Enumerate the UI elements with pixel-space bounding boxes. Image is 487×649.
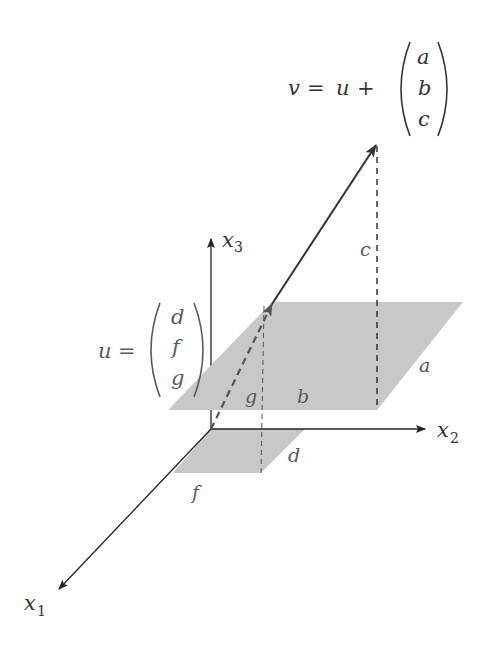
x1-axis [59, 429, 211, 589]
v-plus: + [357, 76, 375, 100]
u-component-g: g [171, 366, 184, 390]
x1-subscript: 1 [37, 603, 46, 619]
v-component-b: b [418, 76, 431, 100]
v-component-c: c [418, 107, 430, 131]
label-f: f [190, 481, 202, 503]
label-g: g [245, 385, 257, 407]
v-left-paren [401, 42, 410, 136]
v-right-paren [438, 42, 447, 136]
x2-label: x [437, 418, 449, 442]
x3-label: x [222, 228, 234, 252]
label-a: a [419, 354, 430, 376]
x3-subscript: 3 [234, 239, 243, 255]
vector-diagram: x 3 x 2 x 1 u = d f g v = u + a b c c a … [0, 0, 487, 649]
v-u-term: u [336, 76, 350, 100]
u-component-f: f [170, 335, 183, 359]
u-equals: = [118, 339, 136, 363]
u-component-d: d [171, 305, 184, 329]
v-equals: = [307, 76, 325, 100]
label-d: d [288, 444, 300, 466]
x2-subscript: 2 [450, 430, 459, 446]
v-component-a: a [417, 45, 430, 69]
label-b: b [297, 385, 309, 407]
v-vector [272, 145, 376, 304]
x1-label: x [24, 591, 36, 615]
u-lhs: u [98, 339, 112, 363]
label-c: c [360, 238, 371, 260]
v-lhs: v [288, 76, 300, 100]
u-left-paren [151, 303, 160, 397]
lower-plane [173, 429, 305, 473]
